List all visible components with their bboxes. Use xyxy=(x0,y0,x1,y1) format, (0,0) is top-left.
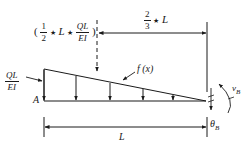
ql-ei-fraction: QL EI xyxy=(76,22,90,43)
load-function-label: f (x) xyxy=(137,64,153,74)
deflection-indicator xyxy=(208,88,214,110)
close-paren: ) xyxy=(92,25,96,37)
star-operator: ★ xyxy=(153,17,159,25)
point-a-label: A xyxy=(33,95,39,105)
ql-ei-fraction: QL EI xyxy=(5,71,19,92)
half-fraction: 1 2 xyxy=(40,22,47,43)
span-length-label: L xyxy=(119,132,125,142)
load-arrows xyxy=(44,70,173,100)
star-operator: ★ xyxy=(50,29,56,37)
rotation-label: θB xyxy=(210,119,219,129)
distance-label: 2 3 ★ L xyxy=(144,10,168,31)
open-paren: ( xyxy=(34,25,38,37)
length-symbol: L xyxy=(162,13,168,25)
left-load-leader-arrow xyxy=(26,77,42,81)
star-operator: ★ xyxy=(67,29,73,37)
deflection-label: vB xyxy=(232,84,240,93)
two-thirds-fraction: 2 3 xyxy=(144,10,151,31)
beam-diagram: ( 1 2 ★ L ★ QL EI ) 2 3 ★ L QL EI f (x) … xyxy=(0,0,248,145)
triangular-load xyxy=(44,69,206,101)
length-symbol: L xyxy=(58,25,64,37)
function-leader-arrow xyxy=(123,72,135,80)
resultant-formula: ( 1 2 ★ L ★ QL EI ) xyxy=(34,22,96,43)
left-load-label: QL EI xyxy=(5,71,19,92)
